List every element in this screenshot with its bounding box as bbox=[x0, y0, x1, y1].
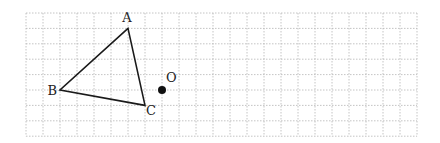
triangle-abc bbox=[60, 28, 145, 105]
dotted-grid bbox=[26, 13, 417, 136]
vertex-label-c: C bbox=[146, 103, 156, 118]
grid-figure: A B C O bbox=[0, 0, 440, 143]
vertex-label-a: A bbox=[121, 10, 132, 25]
point-o-dot bbox=[158, 86, 166, 94]
point-label-o: O bbox=[166, 70, 177, 85]
vertex-label-b: B bbox=[47, 83, 57, 98]
